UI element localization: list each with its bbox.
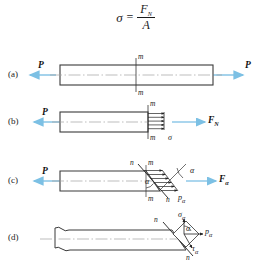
panel-d-shear-stress-subscript: α	[195, 248, 198, 255]
panel-d-angle-label: α	[186, 225, 190, 233]
panel-b-internal-force-subscript: N	[214, 120, 218, 127]
panel-b-internal-force-label: FN	[208, 116, 219, 127]
panel-a-drawing	[30, 58, 243, 92]
panel-c-key: (c)	[8, 176, 18, 185]
panel-d-normal-stress-label: σα	[178, 211, 185, 221]
panel-a-section-label-top: m	[138, 53, 143, 61]
panel-c-internal-force-label: Fα	[219, 175, 229, 186]
figure-canvas	[0, 0, 271, 272]
panel-c-angle-label-outer: α	[190, 167, 194, 175]
panel-b-stress-arrows	[148, 112, 164, 130]
panel-c-total-stress-label: pα	[178, 194, 185, 204]
panel-d-section-n-label-bottom: n	[186, 254, 190, 262]
panel-d-drawing	[40, 219, 203, 256]
panel-a-right-force-label: P	[245, 61, 251, 71]
panel-c-section-n-label-top: n	[130, 159, 134, 167]
panel-c-angle-label-inner: α	[145, 178, 149, 186]
panel-a-key: (a)	[8, 70, 18, 79]
panel-b-section-label-top: m	[150, 100, 155, 108]
panel-c-section-m-label-bottom: m	[148, 195, 153, 203]
panel-c-total-stress-subscript: α	[182, 197, 185, 204]
panel-d-normal-stress-subscript: α	[182, 214, 185, 221]
panel-a-left-force-label: P	[38, 61, 44, 71]
panel-c-section-m-label-top: m	[148, 159, 153, 167]
panel-d-total-stress-subscript: α	[209, 231, 212, 238]
panel-b-drawing	[34, 105, 205, 139]
panel-c-drawing	[34, 164, 216, 198]
panel-d-total-stress-label: pα	[205, 228, 212, 238]
panel-a-section-label-bottom: m	[138, 89, 143, 97]
panel-c-internal-force-subscript: α	[225, 179, 228, 186]
panel-b-key: (b)	[8, 117, 19, 126]
panel-c-left-force-label: P	[42, 167, 48, 177]
panel-c-angle-arc-outer	[177, 168, 183, 178]
panel-b-stress-label: σ	[168, 134, 172, 142]
panel-d-key: (d)	[8, 233, 19, 242]
panel-b-section-label-bottom: m	[150, 134, 155, 142]
panel-c-section-n-label-bottom: n	[166, 196, 170, 204]
panel-d-section-n-label-top: n	[154, 216, 158, 224]
panel-b-left-force-label: P	[42, 108, 48, 118]
panel-d-shear-stress-label: τα	[192, 245, 198, 255]
